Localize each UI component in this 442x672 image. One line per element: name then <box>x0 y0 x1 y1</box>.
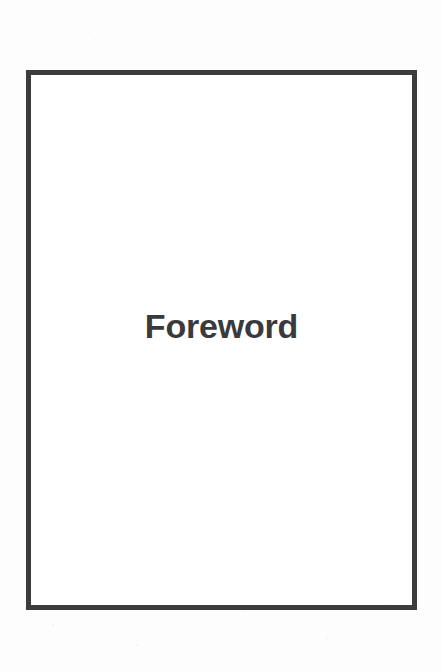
frame-content-area: Foreword <box>31 75 412 605</box>
page-border-frame: Foreword <box>26 70 417 610</box>
page-title: Foreword <box>145 309 298 343</box>
